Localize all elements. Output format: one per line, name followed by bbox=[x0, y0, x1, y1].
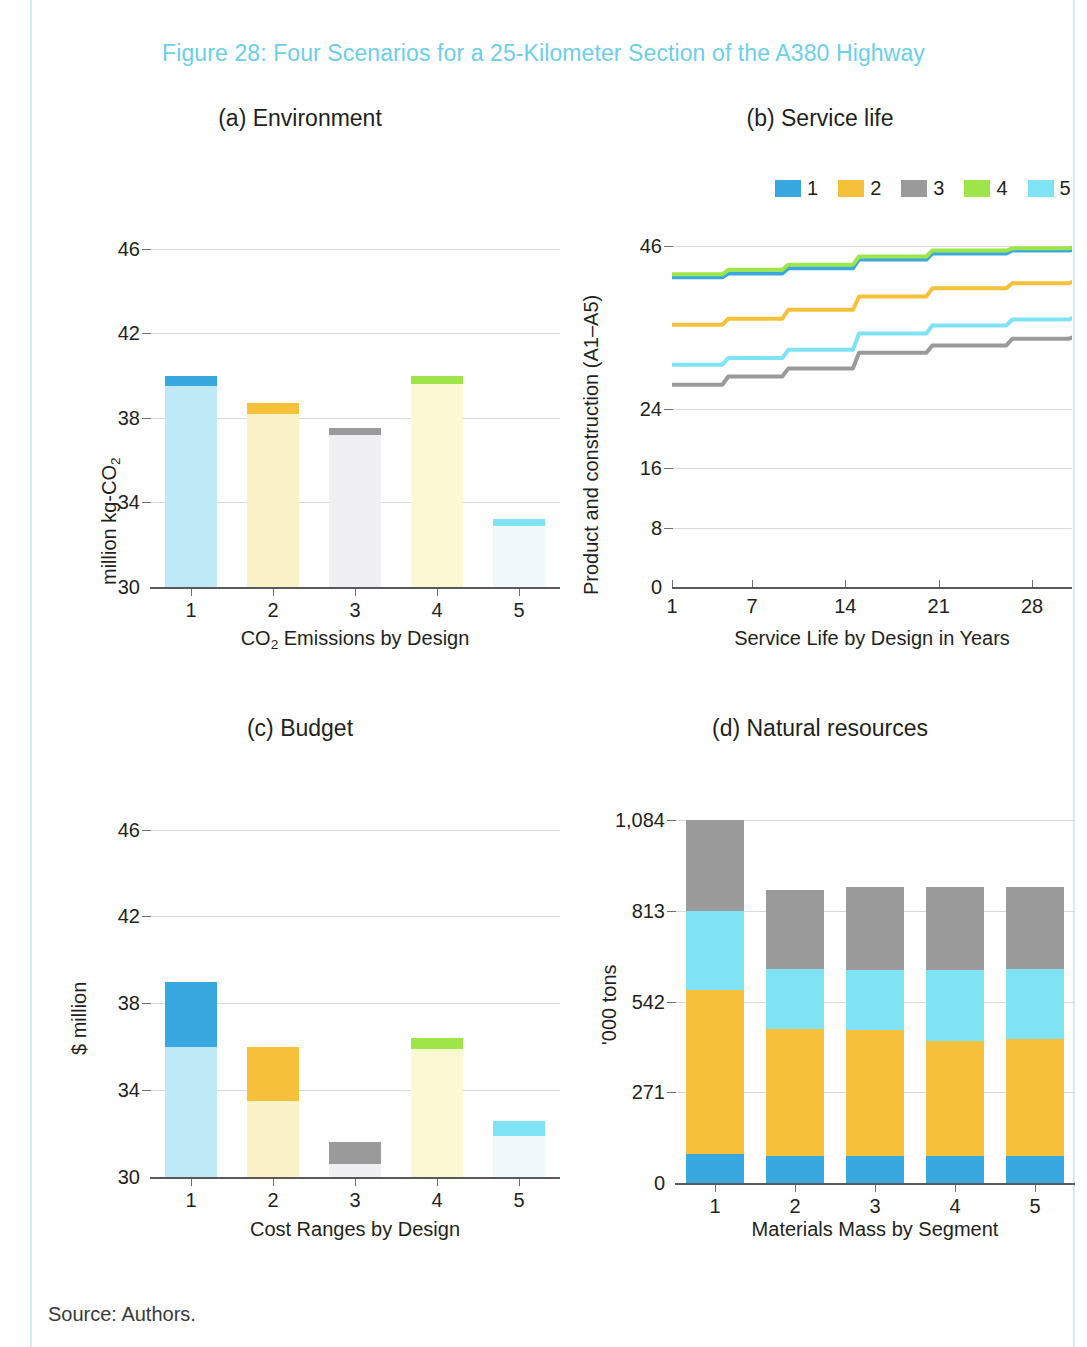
panel-b-y-axis-title: Product and construction (A1–A5) bbox=[580, 295, 603, 595]
y-axis-tick-label: 46 bbox=[84, 818, 140, 841]
x-axis-tick-mark bbox=[519, 1179, 520, 1186]
panel-environment: (a) Environment million kg-CO2 303438424… bbox=[40, 105, 560, 665]
legend-swatch-3 bbox=[901, 180, 927, 197]
x-axis-tick-mark bbox=[191, 589, 192, 596]
gridline bbox=[150, 333, 560, 334]
y-axis-tick-label: 38 bbox=[84, 406, 140, 429]
y-axis-tick-label: 34 bbox=[84, 491, 140, 514]
y-axis-tick-label: 542 bbox=[609, 990, 665, 1013]
legend-label: 2 bbox=[870, 177, 881, 200]
bar-range-cap bbox=[411, 376, 463, 384]
y-axis-tick-mark bbox=[142, 1003, 151, 1004]
panel-b-legend: 12345 bbox=[775, 177, 1082, 200]
x-axis-line bbox=[672, 587, 1072, 589]
x-axis-tick-label: 3 bbox=[349, 1189, 360, 1212]
panel-a-y-axis-title: million kg-CO2 bbox=[98, 457, 121, 585]
legend-item[interactable]: 4 bbox=[964, 177, 1007, 200]
bar-segment bbox=[1006, 887, 1064, 968]
gridline bbox=[150, 916, 560, 917]
legend-item[interactable]: 2 bbox=[838, 177, 881, 200]
x-axis-tick-mark bbox=[875, 1185, 876, 1192]
legend-label: 5 bbox=[1060, 177, 1071, 200]
x-axis-tick-label: 1 bbox=[709, 1195, 720, 1218]
x-axis-tick-mark bbox=[437, 589, 438, 596]
y-axis-tick-label: 46 bbox=[606, 235, 662, 258]
x-axis-tick-label: 3 bbox=[349, 599, 360, 622]
bar-segment bbox=[926, 1041, 984, 1157]
y-axis-tick-mark bbox=[667, 820, 676, 821]
panel-b-plot-area: 0816244617142128 bbox=[672, 235, 1072, 587]
x-axis-tick-mark bbox=[519, 589, 520, 596]
legend-swatch-1 bbox=[775, 180, 801, 197]
x-axis-tick-mark bbox=[437, 1179, 438, 1186]
legend-label: 1 bbox=[807, 177, 818, 200]
panel-d-title: (d) Natural resources bbox=[560, 715, 1080, 742]
bar-range-cap bbox=[329, 1142, 381, 1164]
x-axis-tick-label: 4 bbox=[431, 1189, 442, 1212]
x-axis-tick-label: 2 bbox=[267, 599, 278, 622]
bar-segment bbox=[926, 887, 984, 970]
x-axis-tick-label: 4 bbox=[949, 1195, 960, 1218]
x-axis-tick-label: 7 bbox=[746, 595, 757, 618]
bar-body bbox=[411, 1049, 463, 1177]
y-axis-tick-label: 24 bbox=[606, 398, 662, 421]
bar-range-cap bbox=[165, 982, 217, 1047]
x-axis-tick-label: 1 bbox=[185, 599, 196, 622]
bar-segment bbox=[926, 970, 984, 1041]
x-axis-tick-label: 5 bbox=[513, 1189, 524, 1212]
x-axis-tick-label: 2 bbox=[267, 1189, 278, 1212]
panel-a-plot-area: 303438424612345 bbox=[150, 217, 560, 587]
legend-item[interactable]: 3 bbox=[901, 177, 944, 200]
bar-body bbox=[329, 435, 381, 587]
panel-a-x-axis-title: CO2 Emissions by Design bbox=[150, 627, 560, 650]
panel-c-title: (c) Budget bbox=[40, 715, 560, 742]
bar-segment bbox=[686, 911, 744, 990]
y-axis-tick-label: 8 bbox=[606, 516, 662, 539]
bar-segment bbox=[766, 1156, 824, 1183]
y-axis-tick-label: 1,084 bbox=[609, 809, 665, 832]
source-note: Source: Authors. bbox=[48, 1303, 196, 1326]
y-axis-tick-label: 271 bbox=[609, 1081, 665, 1104]
bar-body bbox=[165, 386, 217, 587]
bar-body bbox=[329, 1164, 381, 1177]
bar-body bbox=[493, 526, 545, 587]
legend-label: 4 bbox=[996, 177, 1007, 200]
bar-segment bbox=[766, 890, 824, 969]
y-axis-tick-label: 0 bbox=[609, 1172, 665, 1195]
bar-segment bbox=[686, 1154, 744, 1183]
bar-range-cap bbox=[247, 1047, 299, 1101]
legend-item[interactable]: 1 bbox=[775, 177, 818, 200]
bar-body bbox=[165, 1047, 217, 1177]
panel-natural-resources: (d) Natural resources '000 tons 02715428… bbox=[560, 715, 1080, 1275]
gridline bbox=[150, 249, 560, 250]
bar-body bbox=[247, 414, 299, 587]
panel-d-x-axis-title: Materials Mass by Segment bbox=[675, 1218, 1075, 1241]
y-axis-tick-label: 0 bbox=[606, 576, 662, 599]
bar-range-cap bbox=[165, 376, 217, 387]
x-axis-tick-label: 14 bbox=[834, 595, 856, 618]
legend-swatch-2 bbox=[838, 180, 864, 197]
y-axis-tick-label: 38 bbox=[84, 992, 140, 1015]
y-axis-tick-label: 46 bbox=[84, 237, 140, 260]
y-axis-tick-label: 813 bbox=[609, 899, 665, 922]
x-axis-tick-label: 21 bbox=[928, 595, 950, 618]
bar-body bbox=[247, 1101, 299, 1177]
bar-segment bbox=[1006, 1039, 1064, 1156]
step-line-3 bbox=[672, 337, 1072, 385]
bar-segment bbox=[686, 820, 744, 911]
legend-item[interactable]: 5 bbox=[1028, 177, 1071, 200]
bar-range-cap bbox=[411, 1038, 463, 1049]
legend-swatch-5 bbox=[1028, 180, 1054, 197]
panel-d-plot-area: 02715428131,08412345 bbox=[675, 820, 1075, 1183]
panel-a-title: (a) Environment bbox=[40, 105, 560, 132]
x-axis-tick-label: 1 bbox=[666, 595, 677, 618]
y-axis-tick-label: 42 bbox=[84, 905, 140, 928]
y-axis-tick-mark bbox=[667, 1092, 676, 1093]
x-axis-tick-mark bbox=[715, 1185, 716, 1192]
x-axis-tick-mark bbox=[191, 1179, 192, 1186]
y-axis-tick-mark bbox=[142, 333, 151, 334]
y-axis-tick-mark bbox=[142, 1090, 151, 1091]
bar-range-cap bbox=[247, 403, 299, 414]
y-axis-tick-label: 30 bbox=[84, 576, 140, 599]
y-axis-tick-mark bbox=[142, 830, 151, 831]
